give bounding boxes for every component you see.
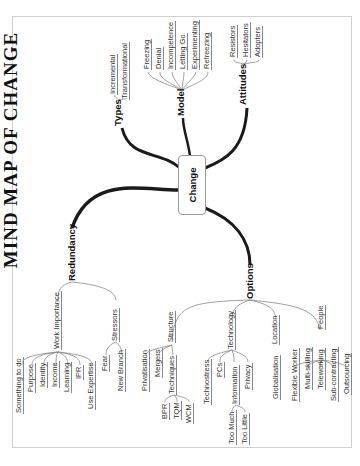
node-too-little[interactable]: Too Little [240,413,250,445]
node-structure[interactable]: Structure [166,311,176,343]
node-incompetence[interactable]: Incompetence [166,21,176,70]
node-income[interactable]: Income [50,361,60,388]
node-transformational[interactable]: Transformational [120,42,130,100]
node-adopters[interactable]: Adopters [253,26,263,58]
node-wcm[interactable]: WCM [184,403,194,424]
node-freezing[interactable]: Freezing [142,39,152,70]
node-sub-contracting[interactable]: Sub-contracting [329,347,339,402]
node-hesitators[interactable]: Hesitators [241,22,251,58]
node-multi-skilling[interactable]: Multi-skilling [303,347,313,390]
node-incremental[interactable]: Incremental [108,54,118,95]
node-teleworking[interactable]: Teleworking [316,348,326,390]
node-privatisation[interactable]: Privatisation [140,349,150,392]
node-denial[interactable]: Denial [154,47,164,70]
node-redundancy[interactable]: Redundancy [66,223,77,282]
center-node-label: Change [187,168,198,203]
node-information[interactable]: Information [230,365,240,405]
node-ipr[interactable]: IPR [74,365,84,380]
node-techniques[interactable]: Techniques [167,355,177,395]
node-bpr[interactable]: BPR [160,403,170,420]
node-mergers[interactable]: Mergers [153,348,163,378]
node-attitudes[interactable]: Attitudes [237,63,248,106]
node-new-branch[interactable]: New Branch [116,349,126,392]
node-learning[interactable]: Learning [62,362,72,393]
node-technology[interactable]: Technology [226,310,236,350]
node-options[interactable]: Options [244,262,255,300]
node-privacy[interactable]: Privacy [243,363,253,390]
node-resistors[interactable]: Resistors [228,25,238,58]
node-tqm[interactable]: TQM [172,401,182,420]
node-types[interactable]: Types [112,98,123,127]
node-people[interactable]: People [316,305,326,330]
node-stressors[interactable]: Stressors [110,308,120,342]
node-globalisation[interactable]: Globalisation [271,355,281,400]
node-refreezing[interactable]: Refreezing [202,32,212,70]
node-identity[interactable]: Identity [38,362,48,388]
node-something-to-do[interactable]: Something to do [14,357,24,414]
node-pcs[interactable]: PCs [215,362,225,378]
node-fear[interactable]: Fear [100,355,110,372]
node-technostress[interactable]: Technostress [202,359,212,405]
node-location[interactable]: Location [270,315,280,345]
node-purpose[interactable]: Purpose [26,363,36,393]
node-letting-go[interactable]: Letting Go [178,33,188,70]
node-model[interactable]: Model [175,88,186,117]
node-work-importance[interactable]: Work Importance [52,291,62,350]
node-too-much[interactable]: Too Much [227,410,237,445]
node-experimenting[interactable]: Experimenting [190,20,200,70]
center-node-change[interactable]: Change [178,155,206,215]
node-outsourcing[interactable]: Outsourcing [342,353,352,395]
node-flexible-worker[interactable]: Flexible Worker [290,348,300,402]
node-use-expertise[interactable]: Use Expertise [86,361,96,410]
